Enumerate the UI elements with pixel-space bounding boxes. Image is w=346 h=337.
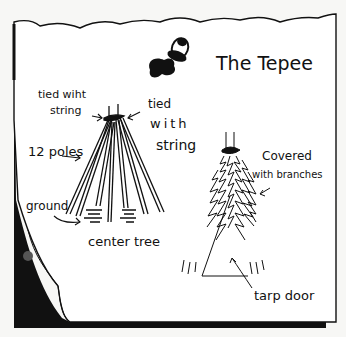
label-covered-2: with branches bbox=[252, 169, 323, 180]
label-tied-right-3: string bbox=[156, 137, 196, 153]
label-tied-left-2: string bbox=[50, 104, 82, 117]
label-ground: ground bbox=[26, 199, 68, 213]
diagram-title: The Tepee bbox=[215, 52, 313, 74]
label-tarp-door: tarp door bbox=[254, 288, 315, 303]
label-tied-left-1: tied wiht bbox=[38, 88, 87, 101]
label-covered-1: Covered bbox=[262, 149, 312, 163]
label-center-tree: center tree bbox=[88, 234, 160, 249]
tepee-diagram: The Tepee bbox=[0, 0, 346, 337]
label-12-poles: 12 poles bbox=[28, 144, 83, 159]
label-tied-right-2: with bbox=[150, 116, 190, 131]
label-tied-right-1: tied bbox=[148, 97, 171, 111]
